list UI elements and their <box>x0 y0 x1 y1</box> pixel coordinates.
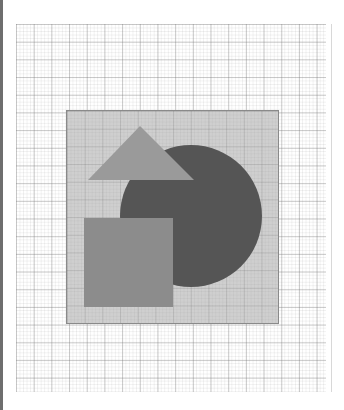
square <box>84 218 173 307</box>
diagram-canvas <box>0 0 344 410</box>
shapes-layer <box>0 0 344 410</box>
